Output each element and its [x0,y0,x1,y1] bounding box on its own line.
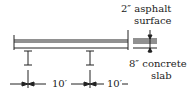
slab-label-2: slab [151,71,172,81]
asphalt-label: 2″ asphalt [121,4,171,14]
thickness-detail [133,30,157,53]
spacing-label-1: 10′ [52,79,67,89]
deck-slab [14,30,128,50]
slab-label: 8″ concrete [129,59,187,69]
girder-2 [86,51,94,65]
girder-1 [24,51,32,65]
asphalt-label-2: surface [134,16,172,26]
spacing-label-2: 10′ [107,79,122,89]
